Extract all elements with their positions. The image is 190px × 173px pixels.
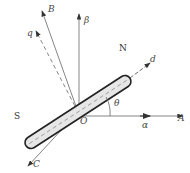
label-N: N [119, 43, 127, 53]
label-d: d [150, 54, 156, 64]
axis-d [130, 63, 150, 78]
label-S: S [14, 111, 20, 121]
label-C: C [33, 159, 40, 169]
label-theta: θ [114, 98, 120, 108]
magnet-diagram: A α β B q C d θ O N S [0, 0, 190, 173]
label-q: q [27, 28, 33, 38]
label-B: B [47, 4, 55, 14]
label-alpha: α [142, 120, 148, 130]
bar-magnet [23, 73, 134, 151]
label-A: A [177, 113, 185, 123]
label-O: O [80, 116, 88, 126]
axis-q [36, 31, 78, 112]
label-beta: β [83, 15, 89, 25]
axis-B [42, 11, 78, 112]
